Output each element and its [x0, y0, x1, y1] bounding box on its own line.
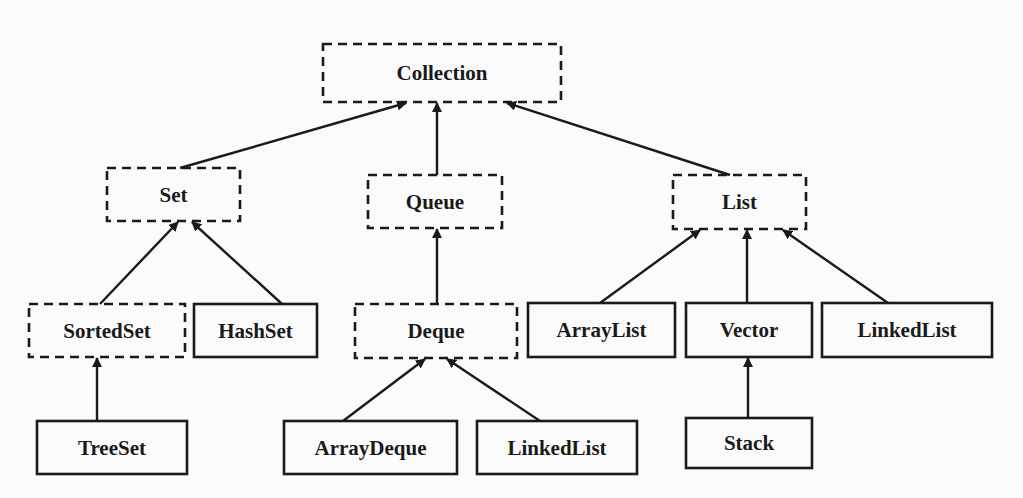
node-list: List — [673, 175, 806, 229]
node-sortedset: SortedSet — [29, 304, 185, 357]
node-collection: Collection — [323, 44, 561, 102]
node-label: LinkedList — [857, 318, 956, 342]
node-label: Vector — [720, 318, 779, 342]
edge-set-to-collection — [180, 103, 406, 168]
edge-hashset-to-set — [192, 222, 282, 304]
node-label: Set — [160, 183, 188, 207]
node-treeset: TreeSet — [37, 421, 187, 474]
node-hashset: HashSet — [194, 304, 317, 357]
node-stack: Stack — [686, 418, 812, 468]
node-vector: Vector — [686, 303, 812, 357]
node-label: ArrayList — [557, 318, 647, 342]
inheritance-edges — [97, 103, 888, 421]
node-label: LinkedList — [507, 436, 606, 460]
hierarchy-nodes: CollectionSetQueueListSortedSetHashSetDe… — [29, 44, 992, 474]
edge-sortedset-to-set — [100, 222, 178, 304]
node-label: TreeSet — [78, 436, 146, 460]
edge-arraylist-to-list — [600, 230, 700, 303]
node-label: Queue — [406, 190, 464, 214]
node-label: SortedSet — [63, 319, 151, 343]
node-set: Set — [107, 168, 240, 221]
collection-hierarchy-diagram: CollectionSetQueueListSortedSetHashSetDe… — [0, 0, 1023, 498]
node-label: Stack — [724, 431, 774, 455]
node-label: HashSet — [218, 319, 293, 343]
node-linkedlist_list: LinkedList — [822, 303, 992, 357]
node-arraylist: ArrayList — [528, 303, 675, 357]
node-queue: Queue — [368, 175, 502, 228]
node-linkedlist_deque: LinkedList — [477, 421, 637, 474]
node-deque: Deque — [355, 304, 517, 358]
node-arraydeque: ArrayDeque — [284, 421, 457, 474]
edge-linkedlist_deque-to-deque — [447, 359, 540, 421]
node-label: Collection — [397, 61, 488, 85]
node-label: List — [722, 190, 757, 214]
edge-arraydeque-to-deque — [343, 359, 425, 421]
edge-list-to-collection — [507, 103, 730, 175]
edge-linkedlist_list-to-list — [783, 230, 888, 303]
node-label: Deque — [407, 319, 464, 343]
node-label: ArrayDeque — [315, 436, 427, 460]
